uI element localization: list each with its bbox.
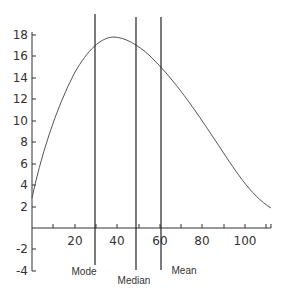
y-tick-label: 8 — [20, 135, 28, 149]
y-tick-label: 4 — [20, 178, 28, 192]
y-tick-labels: 18 16 14 12 10 8 6 4 2 -2 -4 — [13, 28, 28, 278]
median-label: Median — [118, 275, 151, 286]
y-tick-label: 2 — [20, 200, 28, 214]
y-tick-label: 18 — [13, 28, 28, 42]
mean-label: Mean — [171, 265, 196, 276]
y-ticks — [32, 35, 36, 271]
y-tick-label: 12 — [13, 92, 28, 106]
y-tick-label: 6 — [20, 157, 28, 171]
y-tick-label: 16 — [13, 49, 28, 63]
x-tick-label: 100 — [234, 234, 257, 248]
x-tick-label: 20 — [67, 234, 82, 248]
x-tick-labels: 20 40 60 80 100 — [67, 234, 256, 248]
x-tick-label: 40 — [109, 234, 124, 248]
y-tick-label: 14 — [13, 71, 28, 85]
x-ticks — [53, 224, 271, 228]
x-tick-label: 60 — [152, 234, 167, 248]
distribution-curve — [32, 37, 271, 208]
y-tick-label: 10 — [13, 114, 28, 128]
chart-canvas: 18 16 14 12 10 8 6 4 2 -2 -4 20 40 60 80… — [0, 0, 285, 294]
y-tick-label: -4 — [16, 264, 28, 278]
mode-label: Mode — [71, 266, 96, 277]
x-tick-label: 80 — [194, 234, 209, 248]
y-tick-label: -2 — [16, 242, 28, 256]
